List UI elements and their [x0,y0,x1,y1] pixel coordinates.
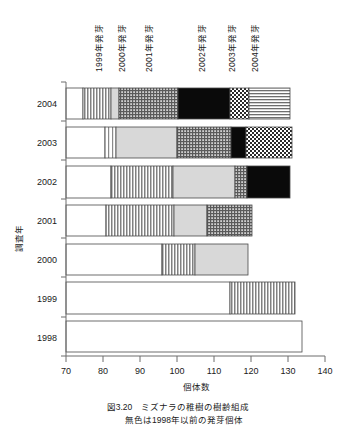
legend-label-2004: 2004年発芽 [250,24,260,72]
bar-segment-2000 [173,166,235,198]
x-tick-label-70: 70 [61,366,71,376]
y-tick-label-2002: 2002 [37,177,57,187]
x-tick-label-100: 100 [169,366,184,376]
bar-segment-1999 [111,166,173,198]
bar-segment-2001 [207,205,252,236]
y-tick-label-2004: 2004 [37,99,57,109]
bar-segment-pre1998 [66,244,162,275]
bar-segment-1999 [230,282,295,314]
bar-segment-2002 [247,166,290,198]
y-axis: 2004 2003 2002 2001 2000 1999 1998 調査年 [14,82,66,356]
x-tick-label-80: 80 [98,366,108,376]
bar-segment-2000 [116,127,177,158]
bar-1998 [66,321,302,352]
x-tick-label-130: 130 [280,366,295,376]
bar-segment-2002 [231,127,246,158]
bar-segment-2004 [249,88,290,119]
bar-2004 [66,88,290,119]
legend-label-2002: 2002年発芽 [197,24,207,72]
y-tick-label-2003: 2003 [37,138,57,148]
legend-label-2003: 2003年発芽 [227,24,237,72]
legend-label-1999: 1999年発芽 [94,24,104,72]
x-axis-title: 個体数 [183,382,210,392]
bar-2003 [66,127,292,158]
y-tick-label-1999: 1999 [37,294,57,304]
bar-segment-pre1998 [66,166,111,198]
y-tick-label-2001: 2001 [37,216,57,226]
legend-label-2000: 2000年発芽 [117,24,127,72]
bar-2002 [66,166,290,198]
bar-2000 [66,244,248,275]
x-tick-label-140: 140 [317,366,332,376]
bar-segment-2003 [230,88,249,119]
bar-1999 [66,282,295,314]
bar-segment-pre1998 [66,205,106,236]
bar-segment-1999 [106,205,174,236]
y-tick-label-2000: 2000 [37,255,57,265]
bar-segment-2001 [119,88,178,119]
y-tick-label-1998: 1998 [37,333,57,343]
bar-segment-pre1998 [66,321,302,352]
caption-line-1: 図3.20 ミズナラの稚樹の樹齢組成 [107,402,250,412]
bar-segment-2003 [246,127,292,158]
bar-segment-2000 [111,88,119,119]
x-tick-label-120: 120 [243,366,258,376]
chart-figure: 1999年発芽 2000年発芽 2001年発芽 2002年発芽 2003年発芽 … [0,0,350,434]
bar-segment-2002 [178,88,230,119]
bar-2001 [66,205,252,236]
x-tick-label-90: 90 [135,366,145,376]
caption-line-2: 無色は1998年以前の発芽個体 [125,415,243,425]
y-axis-title: 調査年 [14,225,24,252]
plot-area [66,88,302,352]
x-tick-label-110: 110 [207,366,221,376]
x-axis: 70 80 90 100 110 120 130 140 個体数 [61,356,333,392]
chart-legend: 1999年発芽 2000年発芽 2001年発芽 2002年発芽 2003年発芽 … [94,24,260,72]
bar-segment-2000 [195,244,248,275]
bar-segment-1999 [162,244,195,275]
bar-segment-1999 [83,88,111,119]
figure-caption: 図3.20 ミズナラの稚樹の樹齢組成 無色は1998年以前の発芽個体 [107,402,250,425]
bar-segment-pre1998 [66,282,230,314]
bar-segment-1999 [105,127,116,158]
bar-segment-pre1998 [66,88,83,119]
bar-segment-2001 [177,127,231,158]
legend-label-2001: 2001年発芽 [144,24,154,72]
bar-segment-pre1998 [66,127,105,158]
bar-segment-2000 [174,205,207,236]
bar-segment-2001 [235,166,247,198]
